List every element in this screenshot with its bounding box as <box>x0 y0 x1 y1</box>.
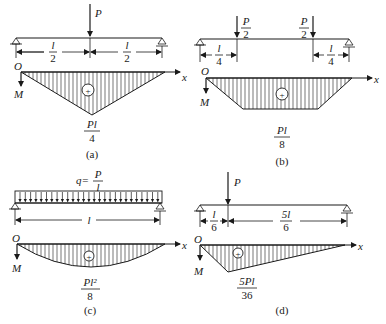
load-label: 2 <box>301 28 307 40</box>
dim-label: 6 <box>211 221 217 233</box>
origin-label: O <box>14 60 22 72</box>
caption: (d) <box>276 304 289 317</box>
dim-label: 5l <box>282 208 291 220</box>
m-axis-label: M <box>13 88 24 100</box>
max-moment-num: 5Pl <box>239 275 254 287</box>
dim-label: 4 <box>216 55 222 67</box>
load-label: P <box>94 168 102 180</box>
distributed-load-arrows-icon <box>18 192 159 203</box>
dim-label: 4 <box>328 55 334 67</box>
m-axis-label: M <box>199 96 210 108</box>
pin-support-icon <box>194 205 206 211</box>
x-axis-label: x <box>181 239 187 251</box>
roller-support-icon <box>156 38 168 46</box>
panel-d: P l 6 5l 6 O x M + 5Pl 36 (d) <box>193 172 363 317</box>
max-moment-den: 4 <box>89 132 95 144</box>
panel-c: q= P l l O x M + Pl² 8 (c) <box>9 168 187 317</box>
dim-label: l <box>87 214 90 226</box>
dim-label: l <box>51 39 54 51</box>
pin-support-icon <box>9 203 21 209</box>
dim-label: l <box>212 208 215 220</box>
origin-label: O <box>194 233 202 245</box>
sign-label: + <box>235 249 240 259</box>
dim-label: l <box>329 42 332 54</box>
roller-support-icon <box>343 39 355 47</box>
roller-support-icon <box>341 205 353 213</box>
origin-label: O <box>201 65 209 77</box>
m-axis-label: M <box>193 265 204 277</box>
moment-diagram <box>200 245 345 272</box>
load-label: q= <box>76 174 89 186</box>
pin-support-icon <box>194 39 206 45</box>
load-label: P <box>233 176 241 188</box>
dim-label: 2 <box>50 52 56 64</box>
panel-a: P l 2 l 2 O x M + <box>10 4 187 161</box>
dim-label: 6 <box>283 221 289 233</box>
bending-moment-diagrams: P l 2 l 2 O x M + <box>0 0 386 324</box>
dim-label: 2 <box>124 52 130 64</box>
load-label: P <box>94 7 102 19</box>
max-moment-num: Pl² <box>82 276 97 288</box>
caption: (a) <box>86 148 99 161</box>
x-axis-label: x <box>357 240 363 252</box>
caption: (c) <box>84 304 97 317</box>
roller-support-icon <box>154 203 166 211</box>
max-moment-den: 36 <box>242 289 254 301</box>
load-label: P <box>300 15 308 27</box>
dim-label: l <box>217 42 220 54</box>
m-axis-label: M <box>11 262 22 274</box>
sign-label: + <box>86 252 91 262</box>
max-moment-den: 8 <box>87 290 93 302</box>
load-label: 2 <box>243 28 249 40</box>
pin-support-icon <box>10 38 22 44</box>
max-moment-num: Pl <box>86 118 97 130</box>
sign-label: + <box>85 86 90 96</box>
dim-label: l <box>125 39 128 51</box>
panel-b: P 2 P 2 l 4 l 4 O x M <box>194 15 379 168</box>
origin-label: O <box>12 232 20 244</box>
load-label: P <box>242 15 250 27</box>
max-moment-den: 8 <box>279 138 285 150</box>
x-axis-label: x <box>373 73 379 85</box>
max-moment-num: Pl <box>276 124 287 136</box>
caption: (b) <box>276 155 289 168</box>
x-axis-label: x <box>181 71 187 83</box>
sign-label: + <box>279 90 284 100</box>
